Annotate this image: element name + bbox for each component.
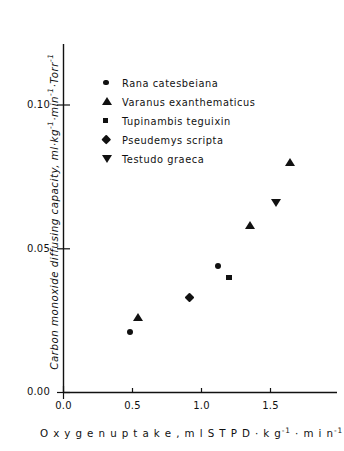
legend-item-varanus-exanthematicus: Varanus exanthematicus — [99, 91, 255, 110]
x-axis-title: O x y g e n u p t a k e , m l S T P D · … — [40, 426, 330, 439]
marker-triangle-down-icon — [271, 199, 281, 207]
legend-marker-triangle-down-icon — [99, 148, 115, 167]
legend-marker-circle-icon — [99, 72, 115, 91]
marker-triangle-up-icon — [245, 221, 255, 229]
legend-item-tupinambis-teguixin: Tupinambis teguixin — [99, 110, 255, 129]
x-axis-title-text-1: O x y g e n u p t a k e , m l S T P D · … — [40, 427, 282, 439]
legend-item-rana-catesbeiana: Rana catesbeiana — [99, 72, 255, 91]
legend-marker-triangle-up-icon — [99, 91, 115, 110]
x-axis-title-sup-2: -1 — [334, 426, 343, 435]
marker-triangle-up-icon — [285, 158, 295, 166]
y-tick-label-000: 0.00 — [10, 386, 50, 397]
legend: Rana catesbeiana Varanus exanthematicus … — [99, 72, 255, 167]
y-tick-label-005: 0.05 — [10, 243, 50, 254]
x-axis-title-sup-1: -1 — [282, 426, 291, 435]
y-axis-title: Carbon monoxide diffusing capacity, ml·k… — [46, 17, 59, 407]
y-tick-label-010: 0.10 — [10, 99, 50, 110]
legend-marker-diamond-icon — [99, 129, 115, 148]
x-axis-title-text-2: · m i n — [291, 427, 334, 439]
legend-label-testudo-graeca: Testudo graeca — [122, 150, 204, 169]
x-tick-label-05: 0.5 — [113, 400, 153, 411]
y-axis-title-sup-2: -1 — [46, 88, 55, 96]
y-axis-title-text-3: ·Torr — [48, 62, 60, 88]
marker-triangle-up-icon — [133, 313, 143, 321]
legend-marker-square-icon — [99, 110, 115, 129]
scatter-plot-figure: Carbon monoxide diffusing capacity, ml·k… — [0, 0, 344, 451]
x-tick-label-15: 1.5 — [251, 400, 291, 411]
x-tick-label-00: 0.0 — [44, 400, 84, 411]
x-tick-label-10: 1.0 — [182, 400, 222, 411]
y-axis-title-sup-3: -1 — [46, 54, 55, 62]
marker-square-icon — [226, 275, 232, 281]
y-axis-title-sup-1: -1 — [46, 121, 55, 129]
legend-item-testudo-graeca: Testudo graeca — [99, 148, 255, 167]
legend-item-pseudemys-scripta: Pseudemys scripta — [99, 129, 255, 148]
marker-circle-icon — [127, 329, 133, 335]
